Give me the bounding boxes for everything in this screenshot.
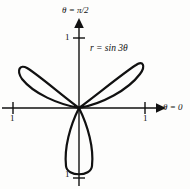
upper-right-petal	[79, 63, 143, 108]
polar-plot-canvas	[0, 0, 190, 189]
rose-curve	[19, 63, 143, 174]
equation-annotation-text: r = sin 3θ	[90, 43, 128, 53]
tick-label-right: 1	[143, 114, 148, 123]
vertical-axis-label: θ = π/2	[62, 6, 89, 15]
tick-label-top: 1	[65, 33, 70, 42]
vertical-axis-arrow	[74, 18, 84, 28]
tick-label-bottom: 1	[65, 170, 70, 179]
horizontal-axis-label-text: θ = 0	[163, 102, 183, 112]
upper-left-petal	[19, 67, 79, 108]
tick-label-left: 1	[10, 114, 15, 123]
equation-annotation: r = sin 3θ	[90, 44, 128, 54]
polar-rose-figure: θ = π/2 θ = 0 r = sin 3θ 1 1 1 1	[0, 0, 190, 189]
horizontal-axis-label: θ = 0	[163, 103, 183, 112]
vertical-axis-label-text: θ = π/2	[62, 5, 89, 15]
